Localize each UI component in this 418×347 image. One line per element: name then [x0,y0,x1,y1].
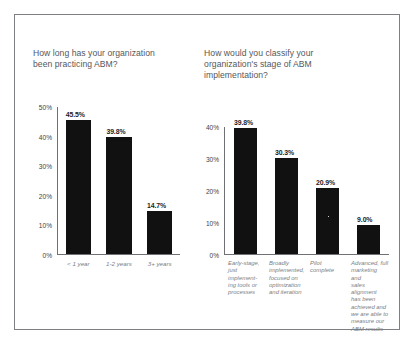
chart-panels: How long has your organization been prac… [15,15,399,329]
figure-frame: How long has your organization been prac… [14,14,400,330]
plot-area-abm-stage: 40% 30% 20% 10% 0% 39.8% 30.3% [224,127,389,255]
bar-slot: 20.9% [307,127,348,254]
chart-panel-abm-stage: How would you classify your organization… [192,15,399,329]
bar-slot: 39.8% [225,127,266,254]
bar[interactable]: 39.8% [234,128,257,254]
y-tick-label: 50% [39,104,52,111]
y-tick-label: 20% [206,188,219,195]
bar-value-label: 9.0% [357,216,372,223]
chart-title-abm-stage: How would you classify your organization… [204,48,354,82]
x-axis-line [57,254,180,255]
x-tick-label: Advanced, full marketing and sales align… [348,260,389,333]
y-tick-label: 10% [39,222,52,229]
x-tick-label: Broadly implemented, focused on optimiza… [266,260,307,333]
x-axis-line [224,254,389,255]
y-tick-label: 0% [210,252,220,259]
bar[interactable]: 30.3% [275,158,298,254]
x-tick-label: < 1 year [58,260,99,267]
bar-slot: 45.5% [58,107,99,254]
bar-slot: 14.7% [139,107,180,254]
bar-slot: 39.8% [99,107,140,254]
plot-area-abm-tenure: 50% 40% 30% 20% 10% 0% 45.5% 39.8% [57,107,180,255]
bar-slot: 9.0% [348,127,389,254]
x-tick-label: Early-stage, just implement- ing tools o… [225,260,266,333]
chart-title-abm-tenure: How long has your organization been prac… [33,48,183,70]
x-tick-label: Pilot complete [307,260,348,333]
bar-value-label: 45.5% [66,111,85,118]
y-tick-label: 40% [39,133,52,140]
bar-value-label: 39.8% [234,119,253,126]
print-speck-artifact [328,216,330,218]
chart-panel-abm-tenure: How long has your organization been prac… [15,15,192,329]
y-tick-label: 10% [206,220,219,227]
bar[interactable]: 9.0% [357,225,380,254]
bar-series-abm-stage: 39.8% 30.3% 20.9% [225,127,389,254]
bar[interactable]: 14.7% [147,211,172,254]
y-tick-label: 30% [206,156,219,163]
bar-series-abm-tenure: 45.5% 39.8% 14.7% [58,107,180,254]
bar-value-label: 14.7% [147,202,166,209]
bar[interactable]: 39.8% [106,137,131,254]
x-tick-label: 3+ years [139,260,180,267]
y-tick-label: 0% [42,252,52,259]
bar-value-label: 20.9% [316,179,335,186]
y-tick-label: 20% [39,192,52,199]
x-axis-labels-abm-tenure: < 1 year 1-2 years 3+ years [58,260,180,267]
bar-slot: 30.3% [266,127,307,254]
bar[interactable]: 45.5% [66,120,91,254]
bar[interactable]: 20.9% [316,188,339,254]
x-axis-labels-abm-stage: Early-stage, just implement- ing tools o… [225,260,389,333]
bar-value-label: 39.8% [106,128,125,135]
x-tick-label: 1-2 years [99,260,140,267]
y-tick-label: 40% [206,124,219,131]
bar-value-label: 30.3% [275,149,294,156]
y-tick-label: 30% [39,163,52,170]
